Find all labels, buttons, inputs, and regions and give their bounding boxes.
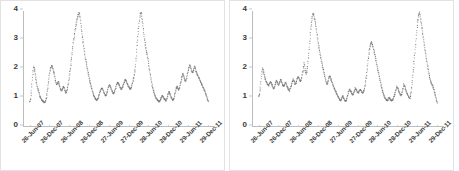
- y-tick-label: 4: [14, 5, 18, 13]
- x-axis-left: 26-Jun-0726-Dec-0726-Jun-0826-Dec-0827-J…: [23, 127, 215, 171]
- data-series: [253, 11, 444, 126]
- y-tick-label: 1: [14, 92, 18, 100]
- y-tick-label: 3: [14, 34, 18, 42]
- chart-panel-right: 01234 26-Jun-0726-Dec-0726-Jun-0826-Dec-…: [229, 0, 454, 171]
- y-tick-mark: [249, 9, 252, 10]
- chart-panel-left: 01234 26-Jun-0726-Dec-0726-Jun-0826-Dec-…: [0, 0, 225, 171]
- y-tick-label: 0: [14, 121, 18, 129]
- y-tick-label: 4: [243, 5, 247, 13]
- plot-area-left: [24, 11, 215, 126]
- x-axis-right: 26-Jun-0726-Dec-0726-Jun-0826-Dec-0827-J…: [252, 127, 444, 171]
- y-tick-label: 0: [243, 121, 247, 129]
- data-series: [24, 11, 215, 126]
- y-tick-label: 2: [243, 63, 247, 71]
- y-tick-label: 1: [243, 92, 247, 100]
- y-axis-right: 01234: [230, 5, 250, 123]
- y-tick-mark: [20, 9, 23, 10]
- plot-frame-left: [23, 11, 215, 127]
- plot-frame-right: [252, 11, 444, 127]
- y-tick-label: 3: [243, 34, 247, 42]
- y-tick-label: 2: [14, 63, 18, 71]
- y-axis-left: 01234: [1, 5, 21, 123]
- plot-area-right: [253, 11, 444, 126]
- figure-container: 01234 26-Jun-0726-Dec-0726-Jun-0826-Dec-…: [0, 0, 459, 171]
